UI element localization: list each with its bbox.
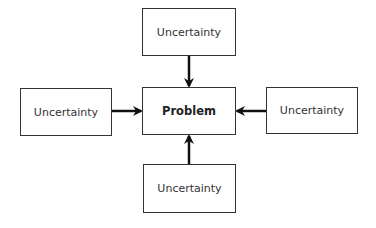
node-left-label: Uncertainty bbox=[34, 106, 98, 119]
node-bottom-label: Uncertainty bbox=[157, 182, 221, 195]
node-center: Problem bbox=[142, 87, 236, 135]
node-bottom: Uncertainty bbox=[143, 164, 236, 213]
node-center-label: Problem bbox=[162, 104, 216, 118]
node-left: Uncertainty bbox=[20, 88, 112, 136]
node-top: Uncertainty bbox=[142, 8, 236, 56]
node-right-label: Uncertainty bbox=[280, 104, 344, 117]
node-top-label: Uncertainty bbox=[157, 26, 221, 39]
diagram-canvas: Uncertainty Uncertainty Problem Uncertai… bbox=[0, 0, 376, 228]
node-right: Uncertainty bbox=[266, 87, 358, 134]
